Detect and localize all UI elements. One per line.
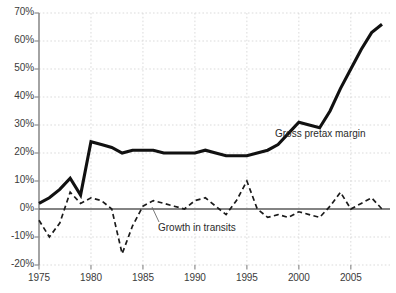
y-axis-tick-label: 70%	[0, 6, 34, 17]
gross-pretax-margin-line	[39, 24, 382, 203]
x-axis-tick-label: 1975	[19, 272, 59, 283]
y-axis-tick-label: -10%	[0, 230, 34, 241]
chart-figure: 70%60%50%40%30%20%10%0%-10%-20% 19751980…	[0, 0, 396, 293]
gross-pretax-margin-label: Gross pretax margin	[275, 128, 366, 139]
x-axis-tick-label: 1995	[227, 272, 267, 283]
chart-canvas	[0, 0, 396, 293]
x-axis-tick-label: 1985	[123, 272, 163, 283]
y-axis-tick-label: -20%	[0, 258, 34, 269]
x-axis-tick-label: 1980	[71, 272, 111, 283]
growth-in-transits-label: Growth in transits	[158, 222, 236, 233]
x-tickmarks-group	[39, 265, 351, 270]
y-axis-tick-label: 60%	[0, 34, 34, 45]
y-axis-tick-label: 50%	[0, 62, 34, 73]
growth-in-transits-line	[39, 181, 382, 254]
y-axis-tick-label: 30%	[0, 118, 34, 129]
x-axis-tick-label: 2000	[279, 272, 319, 283]
y-axis-tick-label: 20%	[0, 146, 34, 157]
x-axis-tick-label: 1990	[175, 272, 215, 283]
y-axis-tick-label: 40%	[0, 90, 34, 101]
x-axis-tick-label: 2005	[331, 272, 371, 283]
y-axis-tick-label: 0%	[0, 202, 34, 213]
y-axis-tick-label: 10%	[0, 174, 34, 185]
